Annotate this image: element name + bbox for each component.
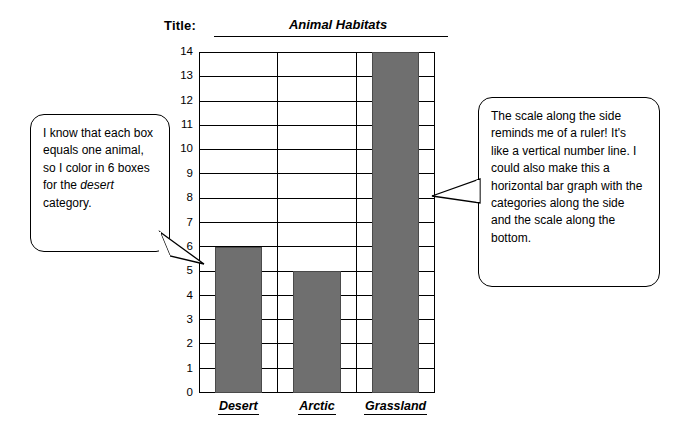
grid-cell[interactable] — [278, 296, 355, 320]
grid-cell[interactable] — [357, 320, 434, 344]
callout-left-emphasis: desert — [80, 178, 113, 192]
callout-right-tail — [432, 175, 488, 211]
category-labels: DesertArcticGrassland — [199, 399, 435, 429]
bar-chart-grid — [199, 52, 435, 393]
grid-cell[interactable] — [200, 344, 277, 368]
grid-cells — [199, 52, 435, 393]
callout-left-text-part2: category. — [43, 196, 91, 210]
grid-cell[interactable] — [200, 320, 277, 344]
grid-cell[interactable] — [357, 369, 434, 392]
grid-column — [278, 53, 356, 392]
y-tick-13: 13 — [160, 71, 193, 83]
y-tick-12: 12 — [160, 95, 193, 107]
grid-cell[interactable] — [200, 174, 277, 198]
grid-cell[interactable] — [278, 344, 355, 368]
y-tick-2: 2 — [160, 339, 193, 351]
grid-column — [357, 53, 434, 392]
grid-cell[interactable] — [278, 126, 355, 150]
category-label-arctic: Arctic — [278, 399, 357, 429]
grid-cell[interactable] — [200, 369, 277, 392]
grid-cell[interactable] — [278, 102, 355, 126]
callout-left-text: I know that each box equals one animal, … — [43, 126, 153, 210]
grid-cell[interactable] — [357, 199, 434, 223]
grid-cell[interactable] — [278, 199, 355, 223]
grid-cell[interactable] — [357, 150, 434, 174]
grid-cell[interactable] — [200, 150, 277, 174]
callout-left: I know that each box equals one animal, … — [30, 114, 170, 252]
worksheet-canvas: Title: Animal Habitats 01234567891011121… — [0, 0, 688, 443]
grid-cell[interactable] — [357, 247, 434, 271]
grid-cell[interactable] — [278, 77, 355, 101]
title-underline — [214, 36, 448, 37]
grid-cell[interactable] — [357, 53, 434, 77]
grid-cell[interactable] — [357, 102, 434, 126]
grid-column — [200, 53, 278, 392]
grid-cell[interactable] — [200, 272, 277, 296]
category-label-grassland: Grassland — [356, 399, 435, 429]
grid-cell[interactable] — [278, 272, 355, 296]
grid-cell[interactable] — [200, 126, 277, 150]
grid-cell[interactable] — [357, 223, 434, 247]
chart-title: Animal Habitats — [228, 17, 448, 32]
y-tick-4: 4 — [160, 290, 193, 302]
grid-cell[interactable] — [357, 126, 434, 150]
grid-cell[interactable] — [357, 296, 434, 320]
grid-cell[interactable] — [357, 344, 434, 368]
y-tick-3: 3 — [160, 314, 193, 326]
callout-left-tail — [160, 230, 220, 270]
grid-cell[interactable] — [357, 77, 434, 101]
grid-cell[interactable] — [278, 174, 355, 198]
grid-cell[interactable] — [278, 150, 355, 174]
grid-cell[interactable] — [278, 223, 355, 247]
grid-cell[interactable] — [200, 102, 277, 126]
y-tick-1: 1 — [160, 363, 193, 375]
grid-cell[interactable] — [278, 320, 355, 344]
y-tick-14: 14 — [160, 46, 193, 58]
grid-cell[interactable] — [357, 174, 434, 198]
grid-cell[interactable] — [278, 53, 355, 77]
title-label: Title: — [164, 18, 196, 33]
category-label-desert: Desert — [199, 399, 278, 429]
grid-cell[interactable] — [278, 247, 355, 271]
grid-cell[interactable] — [200, 296, 277, 320]
grid-cell[interactable] — [200, 77, 277, 101]
grid-cell[interactable] — [357, 272, 434, 296]
y-tick-0: 0 — [160, 387, 193, 399]
grid-cell[interactable] — [200, 53, 277, 77]
grid-cell[interactable] — [200, 199, 277, 223]
callout-right: The scale along the side reminds me of a… — [478, 97, 660, 287]
callout-right-text: The scale along the side reminds me of a… — [491, 109, 642, 245]
grid-cell[interactable] — [278, 369, 355, 392]
